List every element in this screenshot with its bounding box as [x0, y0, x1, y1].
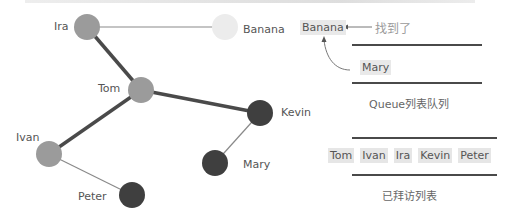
node-ivan — [36, 141, 62, 167]
node-ira — [74, 14, 100, 40]
edge-tom-ivan — [49, 90, 141, 154]
node-label-kevin: Kevin — [281, 106, 311, 119]
queue-bottom-line — [352, 82, 482, 84]
found-label: 找到了 — [375, 19, 411, 36]
node-label-peter: Peter — [78, 190, 107, 203]
edge-tom-kevin — [141, 90, 260, 113]
visited-item: Tom — [328, 148, 354, 163]
edge-ivan-peter — [49, 154, 132, 195]
visited-list: Tom Ivan Ira Kevin Peter — [328, 148, 491, 163]
found-item-banana: Banana — [300, 20, 346, 35]
node-banana — [212, 14, 238, 40]
node-kevin — [247, 100, 273, 126]
node-label-banana: Banana — [243, 23, 285, 36]
visited-item: Ira — [394, 148, 413, 163]
dequeue-arrow — [324, 40, 350, 70]
node-label-mary: Mary — [243, 158, 270, 171]
queue-item-mary: Mary — [360, 60, 391, 75]
node-tom — [128, 77, 154, 103]
visited-item: Ivan — [360, 148, 387, 163]
visited-bottom-line — [352, 174, 497, 176]
queue-top-line — [352, 44, 482, 46]
queue-caption: Queue列表队列 — [369, 95, 449, 111]
node-label-tom: Tom — [98, 82, 120, 95]
node-label-ira: Ira — [54, 20, 69, 33]
visited-item: Peter — [458, 148, 491, 163]
visited-caption: 已拜访列表 — [382, 187, 437, 203]
visited-item: Kevin — [418, 148, 452, 163]
visited-top-line — [352, 137, 497, 139]
dequeue-arrowhead — [322, 36, 327, 42]
node-label-ivan: Ivan — [16, 131, 39, 144]
node-mary — [202, 150, 228, 176]
node-peter — [119, 182, 145, 208]
